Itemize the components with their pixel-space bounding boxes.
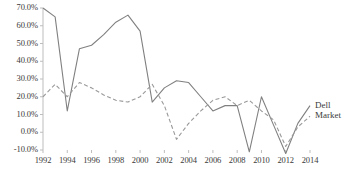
series-label-dell: Dell [315,100,331,110]
y-axis-tick-label: 0.0% [21,126,38,136]
y-axis-tick-label: 10.0% [17,109,38,119]
x-axis-tick-label: 2014 [296,155,324,165]
y-axis-tick-label: 20.0% [17,91,38,101]
y-axis-tick-label: 40.0% [17,55,38,65]
y-axis-tick-label: 60.0% [17,20,38,30]
y-axis-tick-label: 30.0% [17,73,38,83]
y-axis-tick-label: 50.0% [17,38,38,48]
series-line-market [43,83,310,147]
y-axis-tick-label: 70.0% [17,2,38,12]
axis-group [40,8,310,153]
y-axis-tick-label: -10.0% [14,144,38,154]
x-axis-ticks [43,150,310,153]
series-label-market: Market [315,110,341,120]
data-series-group [43,8,310,154]
series-line-dell [43,8,310,154]
line-chart: 70.0%60.0%50.0%40.0%30.0%20.0%10.0%0.0%-… [0,0,359,186]
